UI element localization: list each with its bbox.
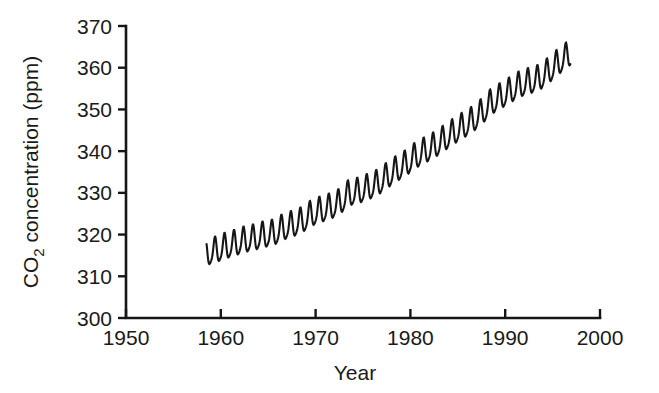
y-tick-label: 310 — [77, 265, 112, 288]
y-tick-label: 330 — [77, 181, 112, 204]
co2-data-line — [207, 43, 571, 264]
x-tick-label: 1980 — [387, 326, 434, 349]
y-axis-title-pre: CO — [19, 257, 42, 289]
y-tick-label: 370 — [77, 15, 112, 38]
x-tick-label: 1970 — [292, 326, 339, 349]
y-axis-title-subscript: 2 — [30, 248, 47, 256]
x-axis-tick-labels: 195019601970198019902000 — [103, 326, 624, 349]
y-tick-label: 360 — [77, 56, 112, 79]
y-axis-title-post: concentration (ppm) — [19, 56, 42, 249]
co2-concentration-chart: 300310320330340350360370 195019601970198… — [0, 0, 659, 393]
x-tick-label: 2000 — [577, 326, 624, 349]
chart-canvas: 300310320330340350360370 195019601970198… — [0, 0, 659, 393]
x-tick-label: 1950 — [103, 326, 150, 349]
y-axis-title: CO2 concentration (ppm) — [19, 56, 47, 288]
y-tick-label: 320 — [77, 223, 112, 246]
y-tick-label: 350 — [77, 98, 112, 121]
x-tick-label: 1960 — [197, 326, 244, 349]
x-axis-title: Year — [334, 361, 376, 384]
y-axis-tick-labels: 300310320330340350360370 — [77, 15, 112, 330]
y-tick-label: 340 — [77, 140, 112, 163]
x-tick-label: 1990 — [482, 326, 529, 349]
